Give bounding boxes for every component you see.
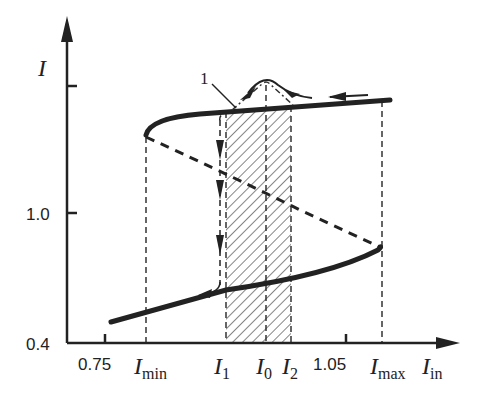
arrow-left-small [284, 90, 300, 98]
callout-label: 1 [200, 69, 209, 88]
marker-imin: Imin [133, 353, 167, 382]
marker-i1: I1 [213, 353, 230, 382]
y-tick-1.0: 1.0 [26, 205, 50, 224]
trajectory-arc [248, 80, 312, 98]
marker-imax: Imax [369, 353, 406, 382]
arrow-up-left [240, 86, 256, 100]
marker-i0: I0 [255, 353, 272, 382]
hatched-region [226, 85, 291, 343]
down-jump-arrows [198, 112, 228, 298]
y-axis-label: I [37, 55, 47, 81]
hysteresis-diagram: 1 I 1.0 0.4 0.75 1.05 Imin I1 I0 I2 Imax… [0, 0, 483, 397]
y-tick-0.4: 0.4 [26, 335, 50, 354]
x-tick-1.05: 1.05 [313, 355, 346, 374]
x-tick-0.75: 0.75 [78, 355, 111, 374]
marker-i2: I2 [281, 353, 298, 382]
x-axis-label: Iin [421, 353, 442, 382]
y-axis [61, 16, 77, 343]
callout-line [212, 84, 236, 108]
